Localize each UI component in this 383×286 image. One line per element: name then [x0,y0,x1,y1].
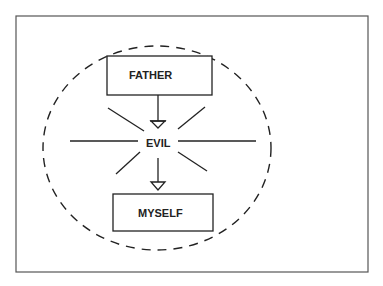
myself-label: MYSELF [138,207,183,219]
arrowhead-icon [151,182,165,190]
myself-node: MYSELF [113,194,213,231]
outer-frame [16,16,368,272]
arrow-father-to-evil [150,95,166,128]
arrowhead-icon [151,121,165,128]
diagram-canvas: FATHER EVIL MYSELF [0,0,383,286]
father-node: FATHER [107,56,212,95]
father-label: FATHER [129,69,172,81]
arrow-evil-to-myself [151,158,165,190]
evil-label: EVIL [146,137,171,149]
